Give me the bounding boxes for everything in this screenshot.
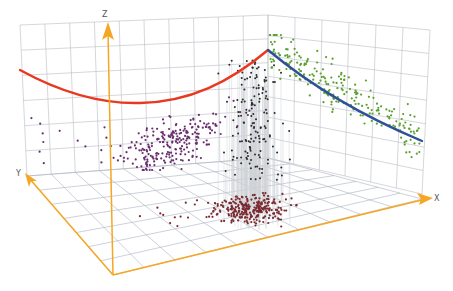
x-axis-label: X <box>434 194 440 203</box>
floor-grid <box>27 158 422 275</box>
z-axis <box>108 32 113 275</box>
y-axis-label: Y <box>15 169 21 178</box>
red-fit-curve <box>20 50 268 103</box>
x-axis-arrow-icon <box>417 193 433 205</box>
z-axis-label: Z <box>102 10 108 19</box>
back-left-wall-grid <box>20 15 268 176</box>
y-axis <box>29 178 113 275</box>
3d-scatter-chart: Z X Y <box>0 0 453 291</box>
